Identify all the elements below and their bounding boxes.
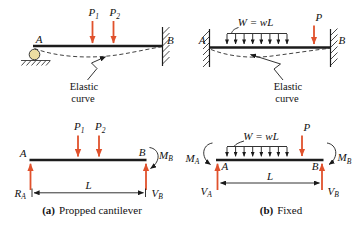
propped-cantilever-elevation: P1 P2 A B Elastic curve xyxy=(21,6,174,104)
label-mb: MB xyxy=(158,149,173,164)
label-end-a: A xyxy=(35,33,43,45)
moment-arrow-mb xyxy=(327,143,336,165)
propped-cantilever-fbd: P1 P2 A B RA VB MB L (a)Propped cantilev… xyxy=(14,120,174,217)
label-ma: MA xyxy=(185,152,200,167)
label-p2: P2 xyxy=(94,120,106,135)
label-end-a: A xyxy=(19,147,27,159)
elastic-curve-label-line1: Elastic xyxy=(70,81,99,92)
label-vb: VB xyxy=(328,185,340,200)
beam-figure-canvas: P1 P2 A B Elastic curve xyxy=(0,0,362,227)
elastic-curve xyxy=(211,48,330,57)
fixed-beam-elevation: W = wL P A B Elastic curve xyxy=(198,11,346,104)
dist-load-label-pointer xyxy=(232,28,239,34)
label-end-b: B xyxy=(339,34,346,46)
label-span-l: L xyxy=(84,179,91,191)
label-p1: P1 xyxy=(88,6,99,21)
beam-figure: P1 P2 A B Elastic curve xyxy=(0,0,362,227)
label-dist-load: W = wL xyxy=(243,130,279,142)
label-p: P xyxy=(315,11,323,23)
elastic-curve-pointer xyxy=(88,57,106,80)
label-p: P xyxy=(303,121,311,133)
label-end-a: A xyxy=(221,160,229,172)
label-ra: RA xyxy=(14,187,27,202)
label-va: VA xyxy=(201,185,213,200)
label-end-a: A xyxy=(198,34,206,46)
label-vb: VB xyxy=(152,187,164,202)
elastic-curve-label-line2: curve xyxy=(71,93,95,104)
label-end-b: B xyxy=(139,146,146,158)
roller-support xyxy=(29,49,40,60)
label-dist-load: W = wL xyxy=(238,16,274,28)
dist-load-label-pointer xyxy=(234,141,244,146)
label-end-b: B xyxy=(312,160,319,172)
label-p2: P2 xyxy=(109,6,121,21)
elastic-curve-label-line2: curve xyxy=(275,93,299,104)
label-span-l: L xyxy=(266,170,273,182)
elastic-curve-pointer xyxy=(251,55,284,81)
elastic-curve xyxy=(35,47,162,57)
distributed-load xyxy=(227,147,287,157)
fixed-beam-fbd: W = wL P A B VA VB MA MB L (b)Fixed xyxy=(185,121,352,217)
label-end-b: B xyxy=(167,34,174,46)
label-mb: MB xyxy=(337,151,352,166)
label-p1: P1 xyxy=(73,120,84,135)
caption-a: (a)Propped cantilever xyxy=(42,204,142,217)
caption-b: (b)Fixed xyxy=(260,204,303,217)
distributed-load xyxy=(227,34,287,45)
fixed-wall-right xyxy=(331,29,338,68)
moment-arrow-mb xyxy=(150,148,159,169)
ground-hatch xyxy=(21,61,51,66)
elastic-curve-label-line1: Elastic xyxy=(274,81,303,92)
moment-arrow-ma xyxy=(204,143,213,165)
